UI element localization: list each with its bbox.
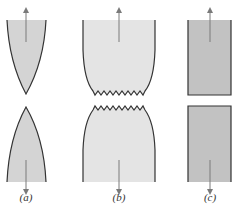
panel-a-label: (a) xyxy=(20,191,33,203)
fracture-diagram xyxy=(0,0,241,209)
panel-c xyxy=(188,10,231,192)
panel-b xyxy=(83,10,155,192)
panel-c-label: (c) xyxy=(204,191,216,203)
panel-a xyxy=(7,10,46,192)
panel-b-label: (b) xyxy=(113,191,126,203)
